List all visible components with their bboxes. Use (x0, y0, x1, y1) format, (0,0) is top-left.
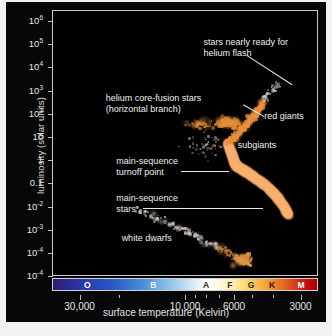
x-axis-title: surface temperature (Kelvin) (6, 307, 326, 318)
star-point (232, 143, 234, 145)
star-point (195, 148, 198, 151)
star-point (215, 145, 217, 147)
star-point (207, 160, 209, 162)
star-point (231, 263, 235, 267)
annotation-ms-stars: main-sequence stars (116, 193, 178, 215)
star-point (244, 254, 247, 257)
star-point (267, 99, 270, 102)
spectral-class-B: B (150, 280, 156, 291)
annotation-red-giants: red giants (264, 111, 304, 122)
star-point (219, 250, 223, 254)
star-point (211, 153, 212, 154)
star-point (246, 261, 250, 265)
star-point (205, 143, 208, 146)
star-point (205, 139, 206, 140)
y-axis-tick (48, 91, 53, 92)
star-point (189, 145, 191, 147)
annotation-helium-flash: stars nearly ready for helium flash (203, 37, 288, 59)
y-axis-tick (48, 44, 53, 45)
star-point (236, 258, 240, 262)
star-point (242, 261, 246, 265)
annotation-ms-turnoff: main-sequence turnoff point (116, 156, 178, 178)
star-point (199, 235, 203, 239)
star-point (207, 135, 209, 137)
y-axis-tick (48, 276, 53, 277)
spectral-class-A: A (203, 280, 209, 291)
star-point (269, 93, 271, 95)
star-point (145, 215, 146, 216)
y-axis-tick-label: 1 (38, 155, 43, 165)
y-axis-tick-label: 10 (32, 132, 43, 142)
y-axis-tick-label: 105 (29, 39, 43, 49)
star-point (214, 154, 217, 157)
star-point (203, 131, 206, 134)
star-point (205, 129, 207, 131)
star-point (200, 148, 202, 150)
x-axis-tick (234, 295, 235, 300)
star-point (240, 124, 242, 126)
x-axis-tick-label: 3000 (289, 301, 311, 312)
figure-panel: luminosity (solar units) stars nearly re… (6, 2, 326, 322)
spectral-class-bar: OBAFGKM (52, 278, 318, 291)
y-axis-tick-label: 10-3 (27, 225, 43, 235)
star-point (236, 262, 238, 264)
x-axis-tick (185, 295, 186, 300)
star-point (208, 141, 210, 143)
leader-line-ms-stars (143, 208, 263, 209)
star-point (250, 252, 252, 254)
y-axis-tick-label: 10-2 (27, 202, 43, 212)
annotation-white-dwarfs: white dwarfs (122, 233, 172, 244)
x-axis-tick (252, 295, 253, 298)
star-point (192, 136, 195, 139)
x-axis-tick (119, 295, 120, 298)
x-axis-tick-label: 10,000 (170, 301, 201, 312)
star-point (250, 257, 253, 260)
y-axis-tick-label: 104 (29, 62, 43, 72)
y-axis-tick (48, 21, 53, 22)
x-axis-tick (301, 295, 302, 300)
star-point (183, 227, 185, 229)
star-point (211, 120, 212, 121)
y-axis-tick-label: 10-4 (27, 271, 43, 281)
star-point (233, 122, 235, 124)
star-point (202, 145, 205, 148)
star-point (249, 264, 252, 267)
star-point (215, 141, 217, 143)
spectral-class-M: M (298, 280, 305, 291)
star-point (191, 152, 193, 154)
y-axis-tick (48, 230, 53, 231)
spectral-class-K: K (269, 280, 275, 291)
star-point (281, 83, 283, 85)
y-axis-tick (48, 253, 53, 254)
y-axis-tick-label: 103 (29, 86, 43, 96)
annotation-horizontal-branch: helium core-fusion stars (horizontal bra… (106, 93, 202, 115)
x-axis-tick (219, 295, 220, 298)
y-axis-tick-label: 0.1 (30, 178, 43, 188)
star-point (205, 117, 208, 120)
star-point (278, 85, 281, 88)
star-point (242, 265, 244, 267)
x-axis-tick (195, 295, 196, 298)
star-point (240, 133, 242, 135)
star-point (261, 106, 264, 109)
spectral-class-G: G (248, 280, 255, 291)
y-axis-tick-label: 106 (29, 16, 43, 26)
plot-area: stars nearly ready for helium flashheliu… (52, 10, 318, 276)
star-point (184, 124, 187, 127)
hr-diagram-figure: luminosity (solar units) stars nearly re… (0, 0, 332, 336)
y-axis-tick (48, 207, 53, 208)
star-point (247, 128, 249, 130)
x-axis-tick (80, 295, 81, 300)
star-point (211, 126, 215, 130)
star-point (198, 153, 200, 155)
star-point (286, 212, 292, 218)
star-point (258, 110, 260, 112)
y-axis-tick (48, 67, 53, 68)
star-point (267, 89, 269, 91)
star-point (218, 139, 220, 141)
y-axis-tick (48, 114, 53, 115)
star-point (178, 146, 180, 148)
y-axis-tick-label: 10-4 (27, 248, 43, 258)
leader-line-ms-turnoff (181, 171, 229, 172)
star-point (204, 155, 207, 158)
